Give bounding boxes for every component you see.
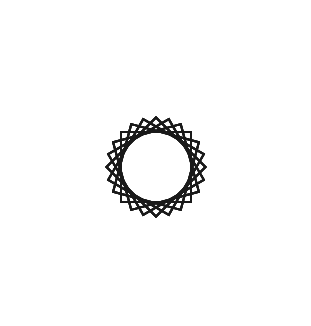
rosette-figure — [0, 0, 311, 326]
image-canvas — [0, 0, 311, 326]
background-rect — [0, 0, 311, 326]
